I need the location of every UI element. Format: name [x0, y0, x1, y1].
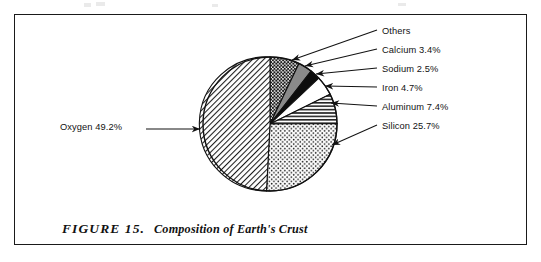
pie-label-sodium: Sodium 2.5%	[382, 64, 438, 74]
leader-line-iron	[325, 86, 377, 87]
pie-label-oxygen: Oxygen 49.2%	[60, 122, 122, 132]
pie-label-others: Others	[382, 26, 411, 36]
leader-line-aluminum	[331, 103, 377, 106]
figure-caption-title: Composition of Earth's Crust	[154, 222, 308, 236]
pie-slices	[199, 57, 337, 191]
pie-label-calcium: Calcium 3.4%	[382, 45, 441, 55]
leader-line-silicon	[332, 125, 377, 145]
pie-slice-silicon[interactable]	[267, 124, 338, 191]
figure-page: Others Calcium 3.4% Sodium 2.5% Iron 4.7…	[0, 0, 541, 262]
figure-caption: FIGURE 15.Composition of Earth's Crust	[62, 219, 308, 237]
figure-caption-number: FIGURE 15.	[62, 221, 145, 236]
pie-slice-oxygen[interactable]	[199, 57, 270, 191]
pie-label-iron: Iron 4.7%	[382, 83, 423, 93]
pie-label-silicon: Silicon 25.7%	[382, 121, 440, 131]
pie-label-aluminum: Aluminum 7.4%	[382, 102, 448, 112]
leader-line-others	[292, 30, 377, 60]
leader-line-sodium	[316, 68, 377, 74]
